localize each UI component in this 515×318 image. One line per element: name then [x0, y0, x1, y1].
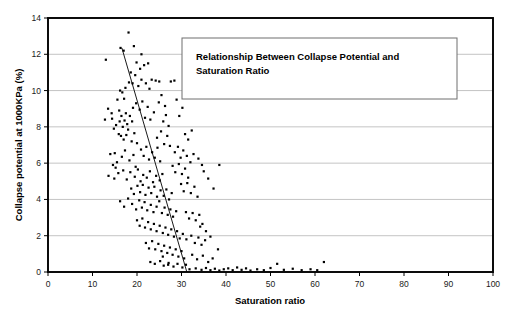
- data-point: [190, 235, 192, 237]
- data-point: [111, 112, 113, 114]
- data-point: [175, 248, 177, 250]
- data-point: [137, 168, 139, 170]
- x-tick-label: 90: [444, 279, 454, 289]
- data-point: [177, 255, 179, 257]
- data-point: [144, 117, 146, 119]
- data-point: [218, 164, 220, 166]
- x-axis-label: Saturation ratio: [235, 295, 305, 306]
- data-point: [162, 232, 164, 234]
- y-tick-label: 14: [32, 13, 42, 23]
- data-point: [165, 114, 167, 116]
- data-point: [144, 226, 146, 228]
- data-point: [124, 87, 126, 89]
- data-point: [182, 233, 184, 235]
- data-point: [125, 134, 127, 136]
- data-point: [223, 268, 225, 270]
- data-point: [168, 198, 170, 200]
- x-tick-label: 20: [132, 279, 142, 289]
- data-point: [126, 178, 128, 180]
- data-point: [121, 91, 123, 93]
- data-point: [155, 206, 157, 208]
- data-point: [197, 236, 199, 238]
- data-point: [145, 82, 147, 84]
- data-point: [176, 99, 178, 101]
- data-point: [195, 267, 197, 269]
- data-point: [118, 133, 120, 135]
- data-point: [131, 140, 133, 142]
- data-point: [163, 245, 165, 247]
- data-point: [138, 199, 140, 201]
- data-point: [119, 120, 121, 122]
- data-point: [107, 175, 109, 177]
- chart-figure: 0102030405060708090100 02468101214 Satur…: [0, 0, 515, 318]
- trend-line-segment: [122, 48, 187, 272]
- data-point: [195, 219, 197, 221]
- data-point: [170, 228, 172, 230]
- data-point: [150, 204, 152, 206]
- data-point: [107, 108, 109, 110]
- data-point: [156, 196, 158, 198]
- data-point: [144, 194, 146, 196]
- title-line-1: Relationship Between Collapse Potential …: [196, 51, 399, 62]
- data-point: [192, 153, 194, 155]
- data-point: [161, 173, 163, 175]
- data-point: [153, 186, 155, 188]
- data-point: [160, 94, 162, 96]
- data-point: [169, 246, 171, 248]
- data-point: [149, 119, 151, 121]
- x-tick-label: 0: [46, 279, 51, 289]
- data-point: [109, 153, 111, 155]
- data-point: [149, 170, 151, 172]
- data-point: [198, 214, 200, 216]
- data-point: [129, 115, 131, 117]
- data-point: [227, 267, 229, 269]
- data-point: [212, 257, 214, 259]
- data-point: [191, 129, 193, 131]
- data-point: [135, 102, 137, 104]
- data-point: [158, 200, 160, 202]
- data-point: [165, 188, 167, 190]
- data-point: [120, 115, 122, 117]
- y-tick-label: 2: [36, 231, 41, 241]
- data-point: [155, 79, 157, 81]
- data-point: [196, 258, 198, 260]
- data-point: [132, 107, 134, 109]
- data-point: [169, 145, 171, 147]
- data-point: [139, 68, 141, 70]
- data-point: [199, 226, 201, 228]
- data-point: [133, 132, 135, 134]
- data-point: [159, 225, 161, 227]
- data-point: [117, 172, 119, 174]
- data-point: [200, 244, 202, 246]
- data-point: [147, 62, 149, 64]
- data-point: [151, 79, 153, 81]
- data-point: [143, 64, 145, 66]
- data-point: [152, 211, 154, 213]
- data-point: [186, 155, 188, 157]
- x-tick-label: 80: [399, 279, 409, 289]
- y-tick-label: 0: [36, 267, 41, 277]
- data-point: [173, 79, 175, 81]
- y-tick-label: 8: [36, 122, 41, 132]
- data-point: [178, 163, 180, 165]
- data-point: [154, 263, 156, 265]
- data-point: [136, 185, 138, 187]
- data-point: [192, 212, 194, 214]
- data-point: [118, 109, 120, 111]
- data-point: [126, 123, 128, 125]
- data-point: [121, 156, 123, 158]
- data-point: [174, 171, 176, 173]
- data-point: [141, 217, 143, 219]
- data-point: [122, 126, 124, 128]
- data-point: [148, 247, 150, 249]
- data-point: [158, 80, 160, 82]
- data-point: [184, 133, 186, 135]
- data-point: [142, 184, 144, 186]
- data-point: [123, 98, 125, 100]
- data-point: [122, 169, 124, 171]
- data-point: [181, 107, 183, 109]
- data-point: [196, 196, 198, 198]
- data-point: [145, 146, 147, 148]
- data-point: [157, 243, 159, 245]
- data-point: [136, 219, 138, 221]
